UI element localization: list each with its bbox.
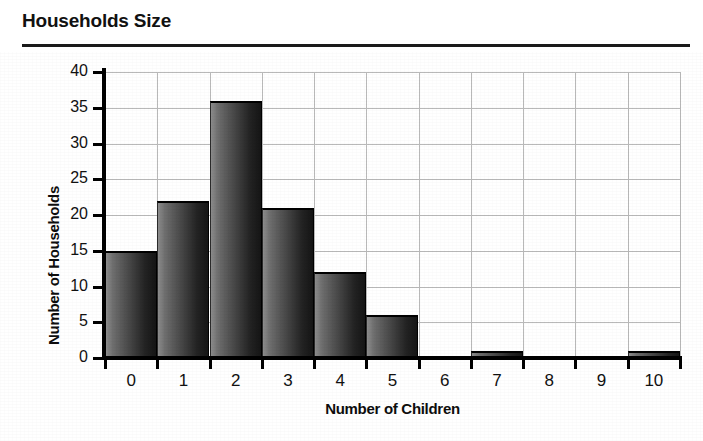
chart-page: { "title": "Households Size", "colors": … — [0, 0, 703, 441]
x-axis-line — [102, 356, 682, 360]
gridline-horizontal — [105, 179, 680, 180]
x-axis-tick-label: 9 — [572, 372, 632, 390]
x-axis-tick-label: 1 — [153, 372, 213, 390]
gridline-vertical — [523, 72, 524, 358]
y-axis-tick — [93, 286, 103, 289]
x-axis-tick-label: 8 — [519, 372, 579, 390]
gridline-vertical — [680, 72, 681, 358]
y-axis-tick — [93, 143, 103, 146]
gridline-vertical — [628, 72, 629, 358]
x-axis-tick-label: 3 — [258, 372, 318, 390]
x-axis-tick — [574, 359, 577, 369]
y-axis-tick-label: 10 — [48, 278, 88, 294]
x-axis-tick-label: 6 — [415, 372, 475, 390]
y-axis-tick-labels: 0510152025303540 — [44, 52, 88, 441]
y-axis-tick — [93, 107, 103, 110]
gridline-horizontal — [105, 108, 680, 109]
y-axis-tick-label: 15 — [48, 242, 88, 258]
bar-1 — [157, 201, 209, 358]
x-axis-tick-label: 5 — [363, 372, 423, 390]
x-axis-tick — [209, 359, 212, 369]
bar-5 — [366, 315, 418, 358]
y-axis-tick-label: 0 — [48, 349, 88, 365]
title-divider — [22, 44, 690, 47]
y-axis-tick — [93, 250, 103, 253]
y-axis-tick-label: 35 — [48, 99, 88, 115]
page-title: Households Size — [22, 8, 690, 34]
y-axis-tick-label: 5 — [48, 313, 88, 329]
x-axis-title: Number of Children — [105, 400, 680, 417]
chart-figure: Number of Households Number of Children … — [0, 52, 703, 441]
y-axis-tick — [93, 71, 103, 74]
x-axis-tick-label: 2 — [206, 372, 266, 390]
x-axis-tick — [104, 359, 107, 369]
x-axis-tick — [365, 359, 368, 369]
x-axis-tick — [418, 359, 421, 369]
bar-3 — [262, 208, 314, 358]
y-axis-tick — [93, 214, 103, 217]
gridline-vertical — [575, 72, 576, 358]
x-axis-tick-label: 10 — [624, 372, 684, 390]
plot-area — [105, 72, 680, 358]
gridline-vertical — [419, 72, 420, 358]
x-axis-tick — [679, 359, 682, 369]
y-axis-tick — [93, 357, 103, 360]
x-axis-tick-label: 7 — [467, 372, 527, 390]
y-axis-tick — [93, 178, 103, 181]
x-axis-tick — [313, 359, 316, 369]
x-axis-tick — [627, 359, 630, 369]
y-axis-tick — [93, 321, 103, 324]
y-axis-tick-label: 40 — [48, 63, 88, 79]
x-axis-tick — [522, 359, 525, 369]
gridline-horizontal — [105, 72, 680, 73]
x-axis-tick — [470, 359, 473, 369]
y-axis-tick-label: 20 — [48, 206, 88, 222]
title-block: Households Size — [22, 8, 690, 50]
y-axis-tick-label: 30 — [48, 135, 88, 151]
y-axis-tick-label: 25 — [48, 170, 88, 186]
bar-4 — [314, 272, 366, 358]
bar-0 — [105, 251, 157, 358]
gridline-vertical — [471, 72, 472, 358]
x-axis-tick-label: 0 — [101, 372, 161, 390]
x-axis-tick — [156, 359, 159, 369]
gridline-horizontal — [105, 144, 680, 145]
bar-2 — [210, 101, 262, 358]
x-axis-tick — [261, 359, 264, 369]
x-axis-tick-label: 4 — [310, 372, 370, 390]
